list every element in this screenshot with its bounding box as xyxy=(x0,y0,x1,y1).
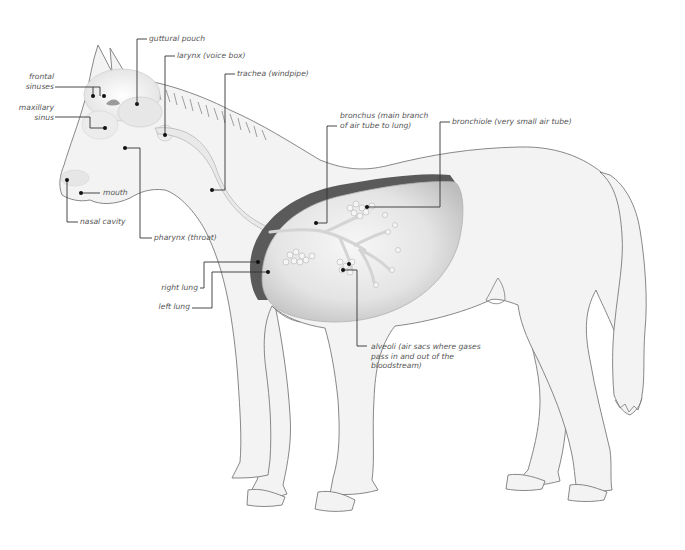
label-left-lung: left lung xyxy=(150,302,190,312)
label-frontal-sinuses: frontal sinuses xyxy=(20,72,54,91)
label-bronchiole: bronchiole (very small air tube) xyxy=(452,117,572,127)
horse-respiratory-diagram xyxy=(0,0,685,550)
label-bronchus: bronchus (main branch of air tube to lun… xyxy=(340,111,428,130)
label-alveoli: alveoli (air sacs where gases pass in an… xyxy=(371,342,481,371)
far-legs xyxy=(248,300,566,498)
label-maxillary-sinus: maxillary sinus xyxy=(12,103,54,122)
label-nasal-cavity: nasal cavity xyxy=(80,217,126,227)
label-guttural-pouch: guttural pouch xyxy=(149,34,205,44)
label-right-lung: right lung xyxy=(150,283,198,293)
label-larynx: larynx (voice box) xyxy=(177,51,246,61)
label-trachea: trachea (windpipe) xyxy=(237,69,309,79)
label-mouth: mouth xyxy=(103,188,128,198)
label-pharynx: pharynx (throat) xyxy=(154,233,217,243)
